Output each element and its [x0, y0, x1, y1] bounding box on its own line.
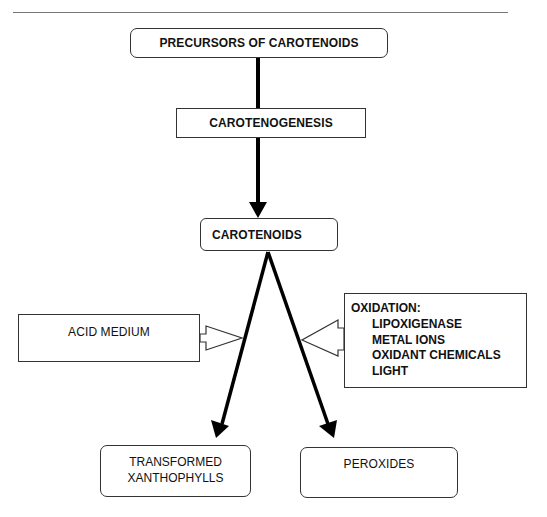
oxidation-factor-list: LIPOXIGENASE METAL IONS OXIDANT CHEMICAL…	[372, 317, 501, 379]
node-carotenogenesis: CAROTENOGENESIS	[176, 108, 366, 138]
node-precursors-label: PRECURSORS OF CAROTENOIDS	[159, 36, 358, 50]
node-transformed-xanthophylls: TRANSFORMED XANTHOPHYLLS	[100, 445, 251, 497]
oxidation-callout-arrow-icon	[302, 320, 344, 356]
node-peroxides-label: PEROXIDES	[301, 457, 457, 471]
node-carotenoids: CAROTENOIDS	[200, 218, 338, 251]
acid-callout-arrow-icon	[200, 326, 242, 350]
node-acid-medium-label: ACID MEDIUM	[19, 325, 199, 339]
node-transformed-line2: XANTHOPHYLLS	[101, 471, 250, 485]
node-carotenogenesis-label: CAROTENOGENESIS	[209, 116, 333, 130]
oxidation-factor: OXIDANT CHEMICALS	[372, 348, 501, 364]
node-precursors: PRECURSORS OF CAROTENOIDS	[130, 28, 388, 58]
arrowhead-down-icon	[249, 202, 267, 218]
oxidation-factor: METAL IONS	[372, 333, 501, 349]
oxidation-heading: OXIDATION:	[351, 301, 421, 315]
connector-layer	[0, 0, 547, 517]
node-carotenoids-label: CAROTENOIDS	[212, 228, 302, 242]
node-transformed-line1: TRANSFORMED	[101, 455, 250, 469]
node-oxidation: OXIDATION: LIPOXIGENASE METAL IONS OXIDA…	[344, 293, 527, 388]
arrowhead-transformed-icon	[211, 420, 229, 438]
node-peroxides: PEROXIDES	[300, 447, 458, 498]
oxidation-factor: LIPOXIGENASE	[372, 317, 501, 333]
oxidation-factor: LIGHT	[372, 364, 501, 380]
node-acid-medium: ACID MEDIUM	[18, 314, 200, 362]
